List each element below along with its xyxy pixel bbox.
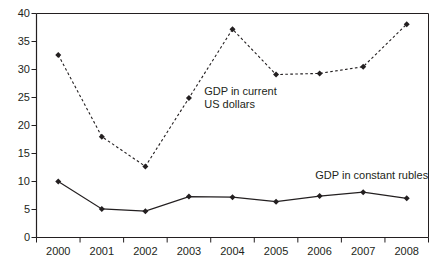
annotation-line: US dollars xyxy=(204,98,277,111)
annotation-current-usd: GDP in currentUS dollars xyxy=(204,85,277,111)
data-point-marker xyxy=(186,95,192,101)
data-point-marker xyxy=(55,179,61,185)
axes-frame xyxy=(37,14,429,238)
line-chart-plot xyxy=(0,0,446,265)
data-point-marker xyxy=(186,194,192,200)
data-point-marker xyxy=(99,134,105,140)
x-tick-label: 2006 xyxy=(298,246,342,257)
y-tick-label: 10 xyxy=(8,176,30,187)
x-axis-ticks xyxy=(37,238,429,243)
y-axis-ticks xyxy=(32,14,37,238)
y-tick-label: 25 xyxy=(8,92,30,103)
y-tick-label: 15 xyxy=(8,148,30,159)
x-tick-label: 2007 xyxy=(341,246,385,257)
data-point-marker xyxy=(273,199,279,205)
data-point-marker xyxy=(273,72,279,78)
annotation-line: GDP in constant rubles xyxy=(315,169,428,182)
data-point-marker xyxy=(360,189,366,195)
chart-figure: 0510152025303540 20002001200220032004200… xyxy=(0,0,446,265)
x-tick-label: 2008 xyxy=(385,246,429,257)
y-tick-label: 0 xyxy=(8,232,30,243)
x-tick-label: 2002 xyxy=(123,246,167,257)
data-point-marker xyxy=(142,163,148,169)
annotation-constant-rubles: GDP in constant rubles xyxy=(315,169,428,182)
data-point-marker xyxy=(99,206,105,212)
series-2 xyxy=(55,179,409,215)
annotation-line: GDP in current xyxy=(204,85,277,98)
data-point-marker xyxy=(317,70,323,76)
data-point-marker xyxy=(142,208,148,214)
x-tick-label: 2004 xyxy=(211,246,255,257)
x-tick-label: 2003 xyxy=(167,246,211,257)
y-tick-label: 5 xyxy=(8,204,30,215)
data-series-layer xyxy=(55,21,409,214)
data-point-marker xyxy=(317,193,323,199)
y-tick-label: 30 xyxy=(8,64,30,75)
x-tick-label: 2005 xyxy=(254,246,298,257)
data-point-marker xyxy=(230,194,236,200)
data-point-marker xyxy=(404,195,410,201)
x-tick-label: 2000 xyxy=(36,246,80,257)
data-point-marker xyxy=(55,52,61,58)
y-tick-label: 35 xyxy=(8,36,30,47)
y-tick-label: 40 xyxy=(8,8,30,19)
x-tick-label: 2001 xyxy=(80,246,124,257)
y-tick-label: 20 xyxy=(8,120,30,131)
